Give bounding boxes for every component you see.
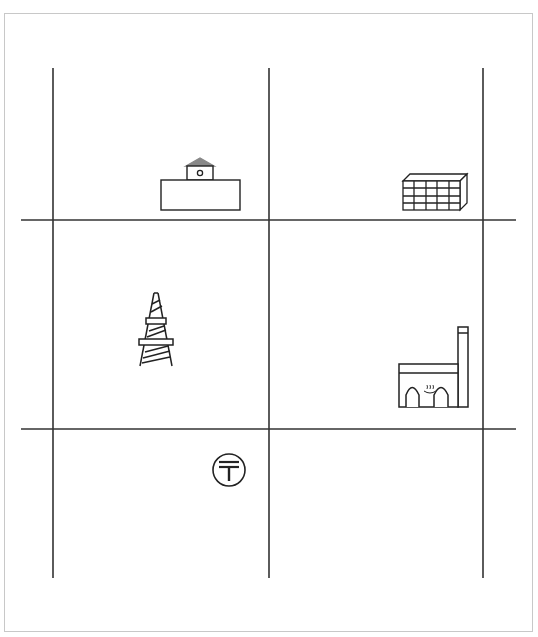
map-diagram bbox=[0, 0, 538, 637]
office-building-icon bbox=[403, 174, 467, 210]
government-office-icon bbox=[161, 158, 240, 210]
post-office-icon bbox=[213, 454, 245, 486]
transmission-tower-icon bbox=[139, 293, 173, 366]
road-grid bbox=[21, 68, 516, 578]
hot-spring-bathhouse-icon bbox=[399, 327, 468, 407]
